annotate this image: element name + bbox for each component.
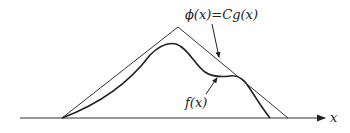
density-label: f(x)	[184, 95, 207, 110]
label-layer: ϕ(x)=Cg(x) f(x) x	[0, 0, 350, 133]
envelope-label: ϕ(x)=Cg(x)	[185, 7, 258, 22]
axis-label-x: x	[330, 110, 338, 125]
